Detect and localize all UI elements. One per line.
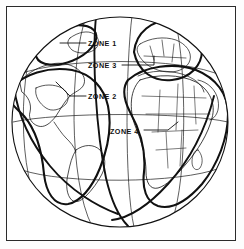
zone-2-boundary <box>8 69 110 204</box>
madagascar-coast <box>192 150 202 170</box>
label-zone-3: ZONE 3 <box>88 61 117 70</box>
leader-zone-2 <box>56 82 86 96</box>
globe-outline <box>12 17 228 227</box>
africa-country-borders <box>142 84 210 168</box>
central-america-coast <box>54 122 76 152</box>
label-zone-1: ZONE 1 <box>88 39 117 48</box>
figure-container: ZONE 1 ZONE 3 ZONE 2 ZONE 4 <box>0 0 244 249</box>
label-zone-2: ZONE 2 <box>88 92 117 101</box>
zone-4-boundary <box>124 66 228 207</box>
leader-zone-4 <box>144 122 178 130</box>
globe-zone-diagram: ZONE 1 ZONE 3 ZONE 2 ZONE 4 <box>0 0 244 249</box>
label-zone-4: ZONE 4 <box>110 127 139 136</box>
